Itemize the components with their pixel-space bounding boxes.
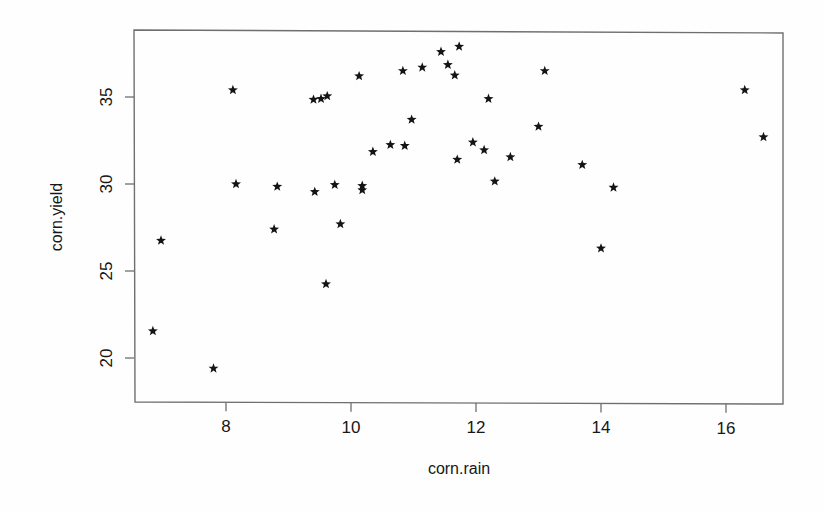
data-point-marker bbox=[540, 66, 550, 75]
data-point-marker bbox=[454, 41, 464, 50]
data-point-marker bbox=[398, 66, 408, 75]
data-point-marker bbox=[400, 141, 410, 150]
data-point-marker bbox=[148, 326, 158, 335]
data-point-marker bbox=[156, 235, 166, 244]
data-point-marker bbox=[490, 176, 500, 185]
y-tick-label: 20 bbox=[97, 349, 116, 368]
data-point-marker bbox=[310, 187, 320, 196]
plot-canvas: 810121416 20253035 corn.rain corn.yield bbox=[0, 0, 824, 512]
data-point-marker bbox=[484, 94, 494, 103]
data-point-marker bbox=[609, 182, 619, 191]
data-point-marker bbox=[228, 85, 238, 94]
data-point-marker bbox=[368, 147, 378, 156]
data-point-marker bbox=[450, 70, 460, 79]
y-axis-title: corn.yield bbox=[48, 183, 65, 251]
plot-frame bbox=[134, 30, 783, 404]
x-tick-label: 16 bbox=[717, 419, 736, 438]
data-point-marker bbox=[385, 140, 395, 149]
x-axis-ticks: 810121416 bbox=[221, 402, 735, 438]
data-point-marker bbox=[309, 94, 319, 103]
y-axis-ticks: 20253035 bbox=[97, 88, 134, 368]
data-point-marker bbox=[596, 243, 606, 252]
data-point-marker bbox=[335, 219, 345, 228]
data-point-marker bbox=[321, 279, 331, 288]
data-point-marker bbox=[330, 180, 340, 189]
y-tick-label: 25 bbox=[97, 262, 116, 281]
data-point-marker bbox=[505, 152, 515, 161]
data-points bbox=[148, 41, 769, 372]
data-point-marker bbox=[231, 179, 241, 188]
data-point-marker bbox=[354, 71, 364, 80]
x-tick-label: 12 bbox=[467, 418, 486, 437]
data-point-marker bbox=[322, 91, 332, 100]
data-point-marker bbox=[417, 62, 427, 71]
y-tick-label: 35 bbox=[97, 88, 116, 107]
data-point-marker bbox=[577, 160, 587, 169]
data-point-marker bbox=[269, 224, 279, 233]
data-point-marker bbox=[407, 114, 417, 123]
x-tick-label: 8 bbox=[221, 417, 230, 436]
x-tick-label: 10 bbox=[342, 418, 361, 437]
data-point-marker bbox=[534, 121, 544, 130]
data-point-marker bbox=[740, 85, 750, 94]
data-point-marker bbox=[357, 185, 367, 194]
data-point-marker bbox=[436, 47, 446, 56]
x-axis-title: corn.rain bbox=[428, 460, 490, 477]
data-point-marker bbox=[479, 145, 489, 154]
scatter-plot-figure: 810121416 20253035 corn.rain corn.yield bbox=[0, 0, 824, 512]
data-point-marker bbox=[209, 363, 219, 372]
data-point-marker bbox=[443, 60, 453, 69]
data-point-marker bbox=[272, 181, 282, 190]
data-point-marker bbox=[452, 154, 462, 163]
data-point-marker bbox=[468, 137, 478, 146]
data-point-marker bbox=[759, 132, 769, 141]
x-tick-label: 14 bbox=[592, 418, 611, 437]
y-tick-label: 30 bbox=[97, 175, 116, 194]
